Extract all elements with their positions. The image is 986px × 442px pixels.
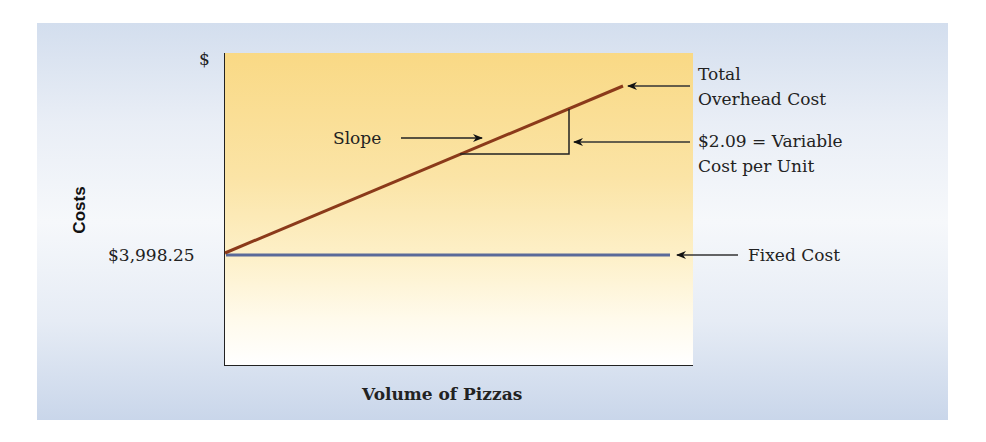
fixed-cost-label: Fixed Cost (748, 245, 840, 266)
y-axis-label: Costs (70, 185, 90, 235)
variable-cost-label-line1: $2.09 = Variable (698, 131, 843, 152)
x-axis-label: Volume of Pizzas (362, 384, 522, 405)
variable-cost-label-line2: Cost per Unit (698, 156, 814, 177)
slope-label: Slope (333, 128, 381, 149)
fixed-cost-tick-label: $3,998.25 (108, 245, 195, 266)
total-cost-line (225, 86, 623, 253)
total-cost-label-line1: Total (698, 64, 741, 85)
chart-lines (0, 0, 986, 442)
total-cost-label-line2: Overhead Cost (698, 89, 826, 110)
y-axis-unit: $ (199, 49, 210, 70)
